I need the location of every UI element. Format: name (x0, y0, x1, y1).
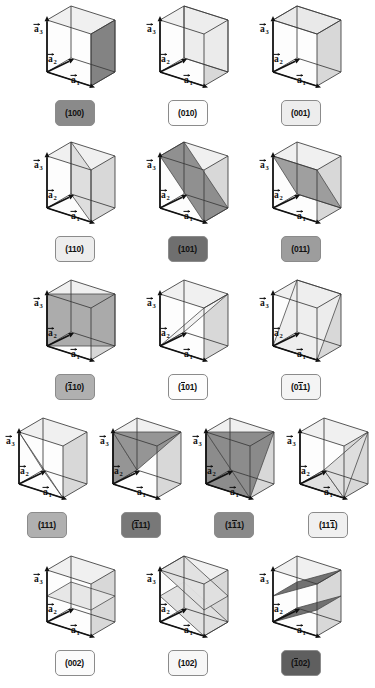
svg-text:a: a (184, 625, 189, 635)
miller-index-badge[interactable]: (001) (281, 100, 321, 126)
svg-text:3: 3 (265, 164, 269, 171)
svg-text:3: 3 (199, 440, 203, 447)
svg-text:2: 2 (166, 608, 169, 615)
miller-index-badge[interactable]: (111) (27, 512, 67, 538)
svg-text:a: a (297, 211, 302, 221)
miller-index-badge[interactable]: (011) (281, 236, 321, 262)
svg-text:a: a (100, 436, 105, 446)
svg-text:a: a (274, 328, 279, 338)
svg-text:3: 3 (152, 578, 156, 585)
svg-text:a: a (161, 604, 166, 614)
svg-text:3: 3 (265, 578, 269, 585)
svg-text:a: a (274, 604, 279, 614)
svg-text:1: 1 (236, 491, 239, 498)
unit-cell-cube: a 3 a 2 a 1 (138, 2, 238, 94)
svg-text:1: 1 (189, 353, 192, 360)
svg-text:a: a (147, 160, 152, 170)
axis-label-a3: a 3 (33, 573, 43, 585)
row-4: a 3 a 2 a 1 (111) a 3 a 2 a 1 (111) a (0, 414, 375, 538)
svg-text:a: a (71, 349, 76, 359)
unit-cell-cube: a 3 a 2 a 1 (0, 414, 97, 506)
miller-index-badge[interactable]: (111) (308, 512, 348, 538)
svg-text:a: a (147, 574, 152, 584)
svg-text:1: 1 (76, 353, 79, 360)
cell-101: a 3 a 2 a 1 (101) (131, 138, 244, 262)
miller-index-label: (002) (65, 659, 84, 668)
svg-text:a: a (71, 211, 76, 221)
svg-text:3: 3 (11, 440, 15, 447)
miller-index-badge[interactable]: (102) (168, 650, 208, 676)
svg-text:1: 1 (76, 215, 79, 222)
svg-text:a: a (161, 54, 166, 64)
miller-index-badge[interactable]: (110) (55, 374, 95, 400)
svg-text:a: a (48, 54, 53, 64)
svg-text:1: 1 (302, 79, 305, 86)
miller-index-badge[interactable]: (011) (281, 374, 321, 400)
svg-text:a: a (34, 574, 39, 584)
svg-text:1: 1 (330, 491, 333, 498)
unit-cell-cube: a 3 a 2 a 1 (25, 138, 125, 230)
svg-text:1: 1 (302, 629, 305, 636)
unit-cell-cube: a 3 a 2 a 1 (25, 2, 125, 94)
svg-text:a: a (137, 487, 142, 497)
svg-text:a: a (184, 75, 189, 85)
miller-index-badge[interactable]: (101) (168, 236, 208, 262)
svg-text:a: a (260, 24, 265, 34)
miller-index-badge[interactable]: (111) (121, 512, 161, 538)
axis-label-a3: a 3 (146, 23, 156, 35)
svg-text:2: 2 (279, 58, 282, 65)
cell-bar102: a 3 a 2 a 1 (102) (244, 552, 357, 676)
cell-1bar11: a 3 a 2 a 1 (111) (189, 414, 279, 538)
svg-text:a: a (20, 466, 25, 476)
svg-text:2: 2 (213, 470, 216, 477)
row-1: a 3 a 2 a 1 (100) a 3 a 2 a 1 (010) a (0, 2, 375, 126)
miller-index-label: (111) (319, 521, 337, 530)
svg-text:2: 2 (53, 58, 56, 65)
unit-cell-cube: a 3 a 2 a 1 (25, 276, 125, 368)
svg-text:a: a (260, 298, 265, 308)
cell-11bar1: a 3 a 2 a 1 (111) (283, 414, 373, 538)
miller-index-badge[interactable]: (101) (168, 374, 208, 400)
svg-text:a: a (161, 328, 166, 338)
svg-text:a: a (48, 190, 53, 200)
svg-text:a: a (230, 487, 235, 497)
axis-label-a3: a 3 (146, 159, 156, 171)
svg-text:a: a (48, 328, 53, 338)
miller-index-badge[interactable]: (002) (55, 650, 95, 676)
axis-label-a3: a 3 (259, 297, 269, 309)
svg-text:1: 1 (76, 79, 79, 86)
svg-text:1: 1 (76, 629, 79, 636)
unit-cell-cube: a 3 a 2 a 1 (91, 414, 191, 506)
miller-index-badge[interactable]: (102) (281, 650, 321, 676)
svg-text:a: a (147, 24, 152, 34)
unit-cell-cube: a 3 a 2 a 1 (251, 552, 351, 644)
miller-index-badge[interactable]: (111) (214, 512, 254, 538)
miller-index-badge[interactable]: (010) (168, 100, 208, 126)
cell-0bar11: a 3 a 2 a 1 (011) (244, 276, 357, 400)
miller-index-badge[interactable]: (110) (55, 236, 95, 262)
svg-text:1: 1 (48, 491, 51, 498)
miller-index-figure: a 3 a 2 a 1 (100) a 3 a 2 a 1 (010) a (0, 0, 375, 688)
svg-text:a: a (274, 190, 279, 200)
svg-text:2: 2 (53, 194, 56, 201)
unit-cell-cube: a 3 a 2 a 1 (184, 414, 284, 506)
cell-002: a 3 a 2 a 1 (002) (18, 552, 131, 676)
miller-index-label: (102) (178, 659, 197, 668)
axis-label-a3: a 3 (193, 435, 203, 447)
cell-110: a 3 a 2 a 1 (110) (18, 138, 131, 262)
axis-label-a3: a 3 (146, 573, 156, 585)
svg-text:a: a (207, 466, 212, 476)
miller-index-label: (011) (291, 245, 309, 254)
svg-text:a: a (287, 436, 292, 446)
miller-index-label: (001) (291, 109, 310, 118)
svg-text:a: a (324, 487, 329, 497)
miller-index-badge[interactable]: (100) (55, 100, 95, 126)
cell-111: a 3 a 2 a 1 (111) (2, 414, 92, 538)
axis-label-a3: a 3 (5, 435, 15, 447)
svg-text:2: 2 (119, 470, 122, 477)
axis-label-a3: a 3 (146, 297, 156, 309)
svg-text:3: 3 (293, 440, 297, 447)
svg-text:a: a (260, 160, 265, 170)
cell-001: a 3 a 2 a 1 (001) (244, 2, 357, 126)
cell-010: a 3 a 2 a 1 (010) (131, 2, 244, 126)
